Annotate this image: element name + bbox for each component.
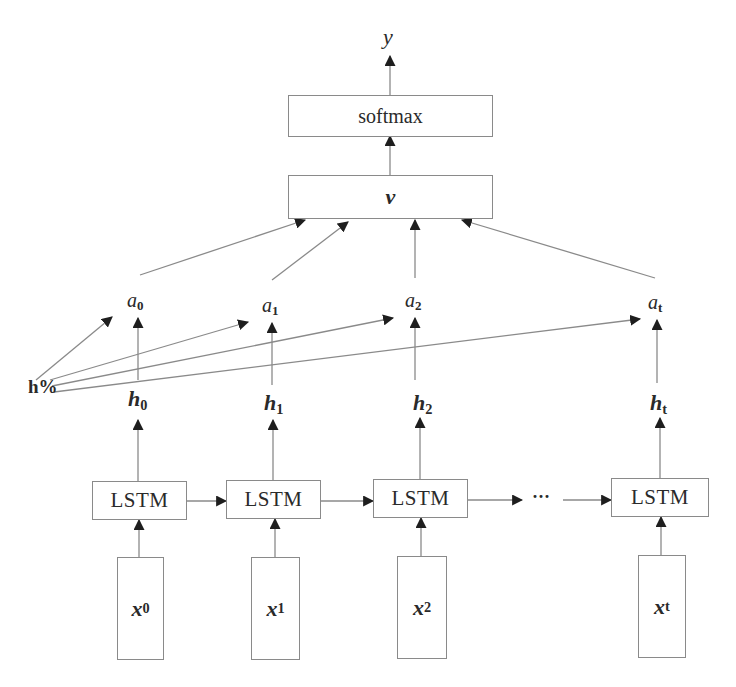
attention-weight-a0: a0 [127, 290, 144, 312]
lstm-cell-2: LSTM [373, 479, 468, 518]
sequence-ellipsis: ··· [532, 488, 550, 506]
context-vector-label: v [386, 184, 396, 210]
input-x0: x0 [117, 557, 164, 660]
attention-weight-a1: a1 [262, 295, 279, 317]
input-xt: xt [638, 555, 686, 658]
lstm-cell-0: LSTM [92, 481, 187, 520]
hidden-state-h2: h2 [413, 392, 432, 416]
input-x1: x1 [251, 557, 300, 660]
arrow-at-to-v [462, 220, 655, 278]
input-x2: x2 [397, 556, 447, 659]
query-vector-label: h% [28, 377, 58, 396]
softmax-box: softmax [288, 95, 493, 137]
hidden-state-ht: ht [650, 392, 667, 416]
attention-weight-at: at [648, 292, 662, 314]
arrow-a1-to-v [272, 222, 348, 280]
arrow-query-to-a0 [36, 317, 112, 380]
lstm-cell-t: LSTM [611, 478, 709, 517]
arrow-query-to-a2 [52, 318, 393, 386]
context-vector-box: v [288, 175, 493, 219]
softmax-label: softmax [358, 105, 422, 128]
arrow-a0-to-v [140, 220, 305, 275]
arrow-query-to-at [54, 319, 640, 392]
lstm-cell-1: LSTM [226, 480, 321, 519]
hidden-state-h0: h0 [128, 388, 147, 412]
output-label: y [383, 26, 393, 48]
attention-weight-a2: a2 [405, 290, 422, 312]
hidden-state-h1: h1 [264, 392, 283, 416]
